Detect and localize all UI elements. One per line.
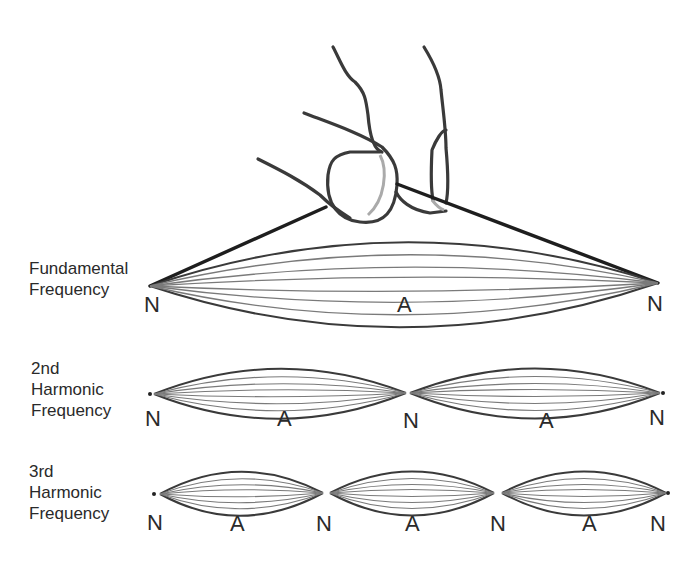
fingertip-shadow [368, 155, 384, 215]
node-marker: N [490, 513, 506, 535]
antinode-marker: A [582, 513, 597, 535]
node-marker: N [145, 408, 161, 430]
label-line: Fundamental [29, 258, 128, 279]
node-marker: N [147, 512, 163, 534]
antinode-marker: A [405, 513, 420, 535]
node-marker: N [144, 294, 160, 316]
node-marker: N [649, 407, 665, 429]
antinode-marker: A [539, 410, 554, 432]
node-marker: N [650, 513, 666, 535]
node-marker: N [403, 410, 419, 432]
third-harmonic-label: 3rd Harmonic Frequency [29, 461, 109, 524]
label-line: Harmonic [31, 379, 111, 400]
node-marker: N [647, 293, 663, 315]
label-line: Frequency [29, 279, 128, 300]
node-marker: N [316, 513, 332, 535]
second-harmonic-label: 2nd Harmonic Frequency [31, 358, 111, 421]
fundamental-label: Fundamental Frequency [29, 258, 128, 300]
antinode-marker: A [230, 513, 245, 535]
antinode-marker: A [277, 408, 292, 430]
label-line: Harmonic [29, 482, 109, 503]
label-line: 2nd [31, 358, 111, 379]
label-line: 3rd [29, 461, 109, 482]
label-line: Frequency [31, 400, 111, 421]
hand-icon [258, 47, 448, 222]
third-harmonic-wave [152, 472, 670, 516]
label-line: Frequency [29, 503, 109, 524]
antinode-marker: A [397, 294, 412, 316]
